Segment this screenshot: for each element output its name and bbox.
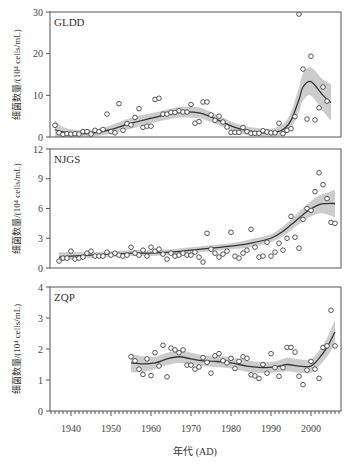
data-point xyxy=(245,248,250,253)
data-point xyxy=(105,250,110,255)
data-point xyxy=(273,250,278,255)
data-point xyxy=(321,85,326,90)
data-point xyxy=(317,106,322,111)
data-point xyxy=(133,115,138,120)
data-point xyxy=(137,367,142,372)
data-point xyxy=(289,345,294,350)
data-point xyxy=(121,128,126,133)
y-tick-label: 12 xyxy=(33,144,43,155)
panel-label: GLDD xyxy=(54,16,85,28)
x-tick-label: 1990 xyxy=(261,423,281,434)
data-point xyxy=(257,376,262,381)
data-point xyxy=(149,373,154,378)
x-tick-label: 1960 xyxy=(141,423,161,434)
data-point xyxy=(293,235,298,240)
data-point xyxy=(129,354,134,359)
data-point xyxy=(157,247,162,252)
data-point xyxy=(161,252,166,257)
data-point xyxy=(213,251,218,256)
data-point xyxy=(313,189,318,194)
data-point xyxy=(217,351,222,356)
x-axis: 1940195019601970198019902000 xyxy=(51,411,339,434)
y-tick-label: 30 xyxy=(33,7,43,18)
data-point xyxy=(53,123,58,128)
data-point xyxy=(225,249,230,254)
data-point xyxy=(81,255,86,260)
data-point xyxy=(309,208,314,213)
data-point xyxy=(221,120,226,125)
data-point xyxy=(281,248,286,253)
data-point xyxy=(333,221,338,226)
data-point xyxy=(165,257,170,262)
data-point xyxy=(209,113,214,118)
panel-label: ZQP xyxy=(54,291,75,303)
data-point xyxy=(217,114,222,119)
x-tick-label: 1940 xyxy=(61,423,81,434)
data-point xyxy=(277,241,282,246)
data-point xyxy=(157,364,162,369)
data-point xyxy=(301,382,306,387)
data-point xyxy=(325,196,330,201)
x-tick-label: 1980 xyxy=(221,423,241,434)
data-point xyxy=(281,365,286,370)
data-point xyxy=(297,246,302,251)
data-point xyxy=(265,371,270,376)
data-point xyxy=(245,356,250,361)
data-point xyxy=(289,214,294,219)
panel-zqp: 01234ZQP细菌数量/(10⁴ cells/mL) xyxy=(11,282,341,417)
data-point xyxy=(289,126,294,131)
data-point xyxy=(229,356,234,361)
y-tick-label: 3 xyxy=(38,233,43,244)
data-point xyxy=(69,249,74,254)
data-point xyxy=(101,127,106,132)
data-point xyxy=(201,355,206,360)
x-tick-label: 1970 xyxy=(181,423,201,434)
data-point xyxy=(197,255,202,260)
data-point xyxy=(137,253,142,258)
y-tick-label: 3 xyxy=(38,313,43,324)
data-point xyxy=(249,227,254,232)
data-point xyxy=(325,99,330,104)
data-point xyxy=(317,376,322,381)
y-axis-label: 细菌数量/(10⁴ cells/mL) xyxy=(11,163,22,253)
data-point xyxy=(89,249,94,254)
data-point xyxy=(125,253,130,258)
chart-figure: 0102030GLDD细菌数量/(10⁴ cells/mL)036912NJGS… xyxy=(0,0,349,465)
data-point xyxy=(269,254,274,259)
data-point xyxy=(277,121,282,126)
data-point xyxy=(241,251,246,256)
data-point xyxy=(221,252,226,257)
data-point xyxy=(253,245,258,250)
data-point xyxy=(277,374,282,379)
data-point xyxy=(201,260,206,265)
data-point xyxy=(305,117,310,122)
data-point xyxy=(129,245,134,250)
panel-label: NJGS xyxy=(54,153,80,165)
y-tick-label: 6 xyxy=(38,203,43,214)
data-point xyxy=(205,360,210,365)
y-tick-label: 0 xyxy=(38,263,43,274)
data-point xyxy=(293,350,298,355)
x-tick-label: 2000 xyxy=(301,423,321,434)
data-point xyxy=(325,344,330,349)
y-tick-label: 2 xyxy=(38,344,43,355)
data-point xyxy=(105,112,110,117)
data-point xyxy=(237,359,242,364)
data-point xyxy=(241,125,246,130)
data-point xyxy=(101,254,106,259)
data-point xyxy=(229,230,234,235)
data-point xyxy=(193,250,198,255)
panel-gldd: 0102030GLDD细菌数量/(10⁴ cells/mL) xyxy=(11,7,341,143)
data-point xyxy=(189,253,194,258)
data-point xyxy=(237,130,242,135)
x-tick-label: 1950 xyxy=(101,423,121,434)
data-point xyxy=(197,119,202,124)
data-point xyxy=(313,367,318,372)
data-point xyxy=(65,256,70,261)
data-point xyxy=(165,375,170,380)
data-point xyxy=(149,245,154,250)
data-point xyxy=(269,351,274,356)
data-point xyxy=(185,110,190,115)
data-point xyxy=(225,361,230,366)
data-point xyxy=(233,366,238,371)
